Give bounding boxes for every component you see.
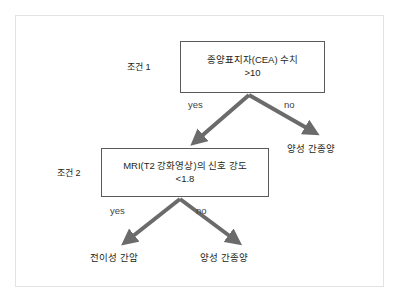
leaf-node-metastatic: 전이성 간암 bbox=[90, 250, 138, 264]
leaf-node-benign-2: 양성 간종양 bbox=[200, 250, 248, 264]
condition-1-label: 조건 1 bbox=[127, 60, 151, 73]
decision-node-cea-line1: 종양표지자(CEA) 수치 bbox=[207, 54, 299, 67]
decision-node-mri-line2: <1.8 bbox=[176, 173, 195, 186]
arrow-mri-yes bbox=[128, 199, 180, 240]
edge-label-cea-yes: yes bbox=[188, 99, 203, 110]
decision-node-mri: MRI(T2 강화영상)의 신호 강도 <1.8 bbox=[101, 148, 269, 197]
edge-label-cea-no: no bbox=[284, 99, 295, 110]
leaf-node-benign-1: 양성 간종양 bbox=[287, 141, 335, 155]
decision-node-cea-line2: >10 bbox=[244, 67, 260, 80]
decision-node-mri-line1: MRI(T2 강화영상)의 신호 강도 bbox=[123, 160, 247, 173]
arrow-mri-no bbox=[180, 199, 235, 240]
arrow-cea-no bbox=[249, 95, 312, 131]
decision-node-cea: 종양표지자(CEA) 수치 >10 bbox=[180, 41, 325, 93]
diagram-canvas: 조건 1 조건 2 종양표지자(CEA) 수치 >10 MRI(T2 강화영상)… bbox=[0, 0, 401, 304]
arrow-cea-yes bbox=[197, 95, 249, 140]
edge-label-mri-no: no bbox=[196, 205, 207, 216]
edge-label-mri-yes: yes bbox=[110, 205, 125, 216]
condition-2-label: 조건 2 bbox=[57, 166, 81, 179]
